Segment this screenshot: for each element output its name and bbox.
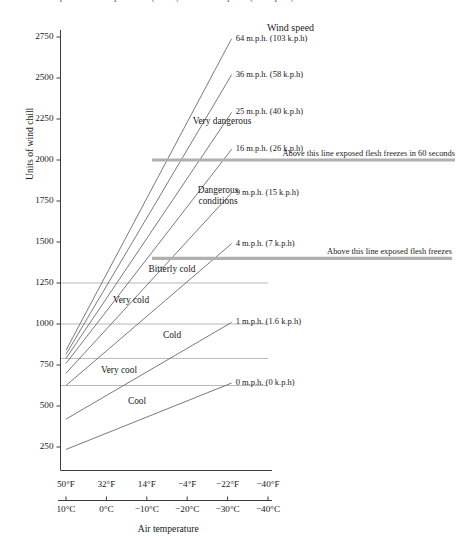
zone-label: Dangerous conditions	[186, 185, 250, 207]
y-tick-label: 1000	[35, 318, 53, 329]
legend-entry-36mph: 36 m.p.h. (58 k.p.h)	[236, 69, 304, 79]
x-tick-label-fahrenheit: 50°F	[57, 479, 75, 490]
x-tick-label-fahrenheit: −40°F	[256, 479, 279, 490]
x-tick-label-celsius: −40°C	[256, 504, 280, 515]
x-tick-label-fahrenheit: 32°F	[97, 479, 115, 490]
chart-plot-area	[0, 0, 459, 542]
zone-label: Bitterly cold	[148, 264, 195, 275]
threshold-label: Above this line exposed flesh freezes in…	[282, 149, 455, 159]
x-tick-label-celsius: −10°C	[135, 504, 159, 515]
legend-entry-0mph: 0 m.p.h. (0 k.p.h)	[236, 377, 295, 387]
wind-speed-line	[66, 383, 232, 449]
wind-speed-line	[66, 112, 232, 358]
x-tick-label-celsius: −30°C	[216, 504, 240, 515]
y-tick-label: 250	[40, 441, 54, 452]
zone-label: Very cold	[113, 295, 149, 306]
x-tick-label-fahrenheit: 14°F	[138, 479, 156, 490]
x-tick-label-celsius: −20°C	[175, 504, 199, 515]
zone-label: Cold	[163, 330, 181, 341]
y-tick-label: 2750	[35, 31, 53, 42]
y-tick-label: 2000	[35, 154, 53, 165]
x-tick-label-fahrenheit: −22°F	[216, 479, 239, 490]
chart-axes	[61, 30, 273, 471]
y-tick-label: 2250	[35, 113, 53, 124]
x-tick-label-fahrenheit: −4°F	[178, 479, 197, 490]
zone-label: Very dangerous	[190, 116, 254, 127]
y-axis-ticks	[57, 37, 61, 447]
x-tick-label-celsius: 0°C	[99, 504, 113, 515]
y-tick-label: 2500	[35, 72, 53, 83]
x-axis-title: Air temperature	[138, 523, 199, 534]
threshold-label: Above this line exposed flesh freezes	[327, 247, 452, 257]
legend-entry-25mph: 25 m.p.h. (40 k.p.h)	[236, 106, 304, 116]
y-tick-label: 1250	[35, 277, 53, 288]
legend-entry-64mph: 64 m.p.h. (103 k.p.h)	[236, 33, 308, 43]
legend-entry-4mph: 4 m.p.h. (7 k.p.h)	[236, 238, 295, 248]
wind-speed-line	[66, 322, 232, 419]
y-axis-title: Units of wind chill	[24, 108, 35, 180]
y-tick-label: 1750	[35, 195, 53, 206]
threshold-lines	[152, 160, 455, 258]
wind-chill-chart-figure: equivalent temperature (in °F) and wind …	[0, 0, 459, 542]
y-tick-label: 1500	[35, 236, 53, 247]
y-tick-label: 500	[40, 400, 54, 411]
wind-speed-lines	[66, 39, 232, 450]
x-tick-label-celsius: 10°C	[57, 504, 76, 515]
wind-speed-line	[66, 149, 232, 363]
x-axis-ticks	[58, 497, 272, 501]
zone-label: Cool	[128, 396, 146, 407]
zone-label: Very cool	[101, 365, 137, 376]
y-tick-label: 750	[40, 359, 54, 370]
legend-entry-1mph: 1 m.p.h. (1.6 k.p.h)	[236, 316, 301, 326]
